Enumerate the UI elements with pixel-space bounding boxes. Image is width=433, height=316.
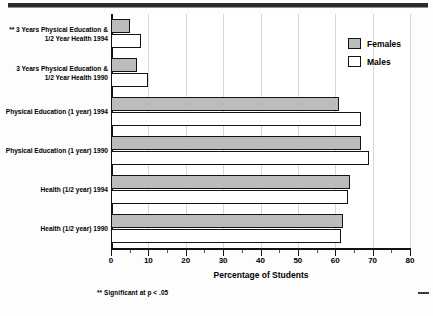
bar-females-1 (111, 58, 137, 72)
category-label-4: Health (1/2 year) 1994 (0, 185, 108, 194)
tick-minor-55 (317, 250, 318, 253)
tick-minor-35 (242, 250, 243, 253)
bar-females-5 (111, 214, 343, 228)
gridline-60 (335, 14, 336, 248)
legend-item-males: Males (348, 56, 428, 67)
bar-females-4 (111, 175, 350, 189)
category-label-2: Physical Education (1 year) 1994 (0, 107, 108, 116)
bar-females-0 (111, 19, 130, 33)
x-tick-label-10: 10 (136, 256, 160, 265)
chart-page: 01020304050607080 Percentage of Students… (0, 0, 433, 316)
bar-females-2 (111, 97, 339, 111)
scan-top-rule-shadow (8, 7, 428, 8)
legend: Females Males (348, 38, 428, 74)
legend-swatch-females-icon (348, 38, 361, 49)
gridline-30 (223, 14, 224, 248)
legend-label-males: Males (367, 57, 391, 67)
bar-males-0 (111, 34, 141, 48)
gridline-10 (148, 14, 149, 248)
tick-minor-75 (391, 250, 392, 253)
scan-edge-mark (418, 292, 429, 294)
bar-males-3 (111, 151, 369, 165)
bar-males-4 (111, 190, 348, 204)
x-axis-title: Percentage of Students (111, 270, 411, 280)
bar-males-5 (111, 229, 341, 243)
tick-minor-15 (167, 250, 168, 253)
x-tick-label-0: 0 (99, 256, 123, 265)
category-label-0: ** 3 Years Physical Education & 1/2 Year… (0, 25, 108, 43)
x-tick-label-80: 80 (398, 256, 422, 265)
bar-males-1 (111, 73, 148, 87)
gridline-40 (261, 14, 262, 248)
legend-swatch-males-icon (348, 56, 361, 67)
tick-minor-5 (130, 250, 131, 253)
x-tick-label-20: 20 (174, 256, 198, 265)
legend-item-females: Females (348, 38, 428, 49)
footnote: ** Significant at p < .05 (97, 289, 168, 296)
x-tick-label-50: 50 (286, 256, 310, 265)
x-tick-label-60: 60 (323, 256, 347, 265)
gridline-20 (186, 14, 187, 248)
bar-females-3 (111, 136, 361, 150)
y-axis-line (111, 14, 113, 248)
tick-minor-65 (354, 250, 355, 253)
x-tick-label-70: 70 (361, 256, 385, 265)
gridline-50 (298, 14, 299, 248)
category-label-5: Health (1/2 year) 1990 (0, 224, 108, 233)
x-tick-label-40: 40 (249, 256, 273, 265)
legend-label-females: Females (367, 39, 401, 49)
x-tick-label-30: 30 (211, 256, 235, 265)
category-label-3: Physical Education (1 year) 1990 (0, 146, 108, 155)
tick-minor-25 (204, 250, 205, 253)
tick-minor-45 (279, 250, 280, 253)
bar-males-2 (111, 112, 361, 126)
category-label-1: 3 Years Physical Education & 1/2 Year He… (0, 64, 108, 82)
